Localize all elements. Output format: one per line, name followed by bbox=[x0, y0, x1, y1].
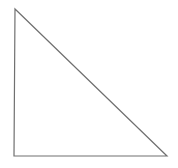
diagram-canvas bbox=[0, 0, 178, 168]
right-triangle bbox=[14, 9, 167, 156]
